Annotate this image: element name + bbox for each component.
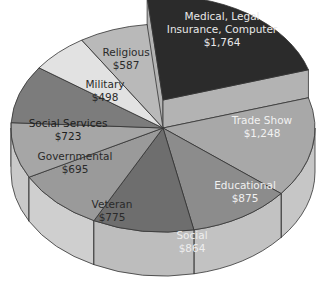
- slice-name: Medical, Legal: [184, 10, 259, 22]
- slice-name: Veteran: [92, 198, 133, 210]
- slice-value: $695: [62, 163, 89, 175]
- slice-value: $723: [55, 130, 82, 142]
- slice-name: Social Services: [29, 117, 108, 129]
- slice-value: $587: [113, 59, 140, 71]
- pie-chart: Medical, LegalInsurance, Computer$1,764T…: [0, 0, 321, 308]
- slice-value: $498: [92, 91, 119, 103]
- label-social: Social$864: [176, 229, 207, 254]
- slice-value: $775: [99, 211, 126, 223]
- slice-value: $1,248: [244, 127, 281, 139]
- slice-name: Religious: [102, 46, 149, 58]
- slice-name: Insurance, Computer: [167, 23, 278, 35]
- slice-name: Governmental: [38, 150, 113, 162]
- slice-value: $864: [179, 242, 206, 254]
- slice-value: $875: [232, 192, 259, 204]
- slice-value: $1,764: [204, 36, 241, 48]
- slice-name: Social: [176, 229, 207, 241]
- slice-name: Trade Show: [231, 114, 293, 126]
- slice-name: Military: [86, 78, 125, 90]
- slice-name: Educational: [214, 179, 276, 191]
